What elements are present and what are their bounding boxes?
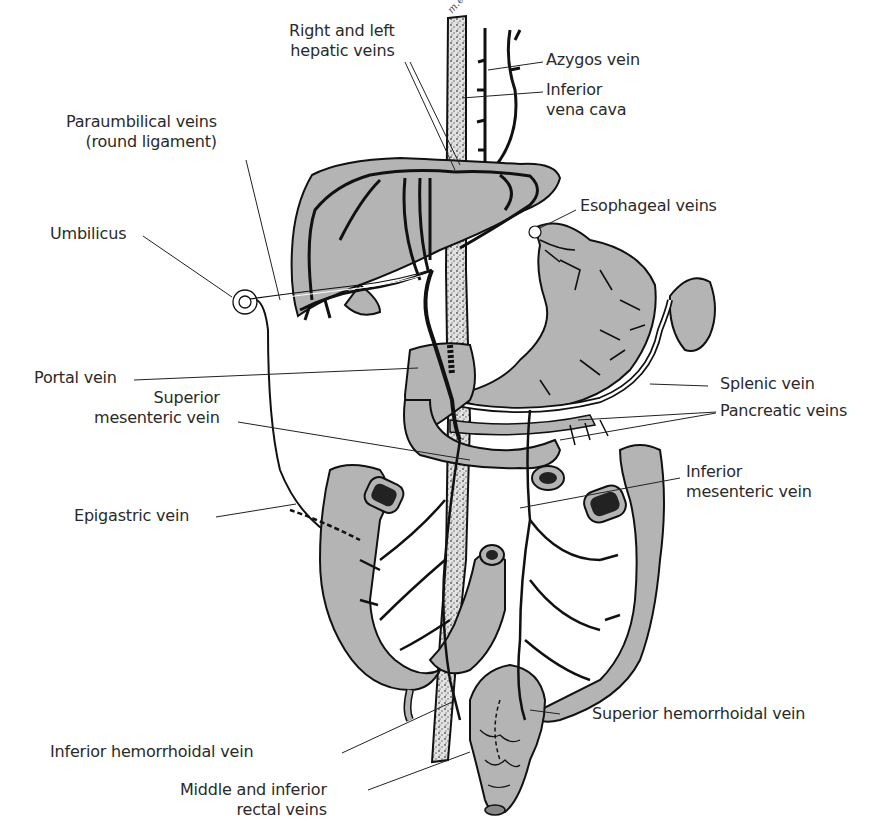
label-line: Umbilicus xyxy=(50,224,126,244)
label-inferior-vena-cava: Inferior vena cava xyxy=(546,80,626,120)
label-line: Superior hemorrhoidal vein xyxy=(592,704,805,724)
label-line: Portal vein xyxy=(34,368,117,388)
label-line: hepatic veins xyxy=(289,41,395,61)
label-epigastric-vein: Epigastric vein xyxy=(74,506,189,526)
label-line: Middle and inferior xyxy=(180,780,327,800)
label-inferior-hemorrhoidal-vein: Inferior hemorrhoidal vein xyxy=(50,742,253,762)
label-line: mesenteric vein xyxy=(686,482,812,502)
stomach xyxy=(455,224,656,410)
label-line: Azygos vein xyxy=(546,50,640,70)
label-line: Inferior xyxy=(546,80,626,100)
label-line: (round ligament) xyxy=(66,132,217,152)
liver xyxy=(250,158,560,320)
transverse-colon xyxy=(404,400,564,490)
label-superior-mesenteric-vein: Superior mesenteric vein xyxy=(94,388,220,428)
label-portal-vein: Portal vein xyxy=(34,368,117,388)
label-line: mesenteric vein xyxy=(94,408,220,428)
portal-venous-system-diagram: m.e. Right and left hepatic veins Az xyxy=(0,0,892,833)
label-line: Inferior hemorrhoidal vein xyxy=(50,742,253,762)
label-line: Right and left xyxy=(289,21,395,41)
label-esophageal-veins: Esophageal veins xyxy=(580,196,717,216)
label-line: rectal veins xyxy=(180,800,327,820)
label-line: Esophageal veins xyxy=(580,196,717,216)
label-paraumbilical-veins: Paraumbilical veins (round ligament) xyxy=(66,112,217,152)
label-inferior-mesenteric-vein: Inferior mesenteric vein xyxy=(686,462,812,502)
label-splenic-vein: Splenic vein xyxy=(720,374,815,394)
label-line: Pancreatic veins xyxy=(720,401,847,421)
artist-signature: m.e. xyxy=(445,0,467,15)
label-line: Paraumbilical veins xyxy=(66,112,217,132)
label-line: vena cava xyxy=(546,100,626,120)
label-umbilicus: Umbilicus xyxy=(50,224,126,244)
label-line: Splenic vein xyxy=(720,374,815,394)
label-line: Superior xyxy=(94,388,220,408)
label-pancreatic-veins: Pancreatic veins xyxy=(720,401,847,421)
label-line: Inferior xyxy=(686,462,812,482)
label-hepatic-veins: Right and left hepatic veins xyxy=(289,21,395,61)
ascending-colon xyxy=(320,465,440,720)
label-middle-inferior-rectal-veins: Middle and inferior rectal veins xyxy=(180,780,327,820)
spleen xyxy=(670,278,715,351)
label-line: Epigastric vein xyxy=(74,506,189,526)
label-azygos-vein: Azygos vein xyxy=(546,50,640,70)
rectum xyxy=(470,665,545,815)
label-superior-hemorrhoidal-vein: Superior hemorrhoidal vein xyxy=(592,704,805,724)
